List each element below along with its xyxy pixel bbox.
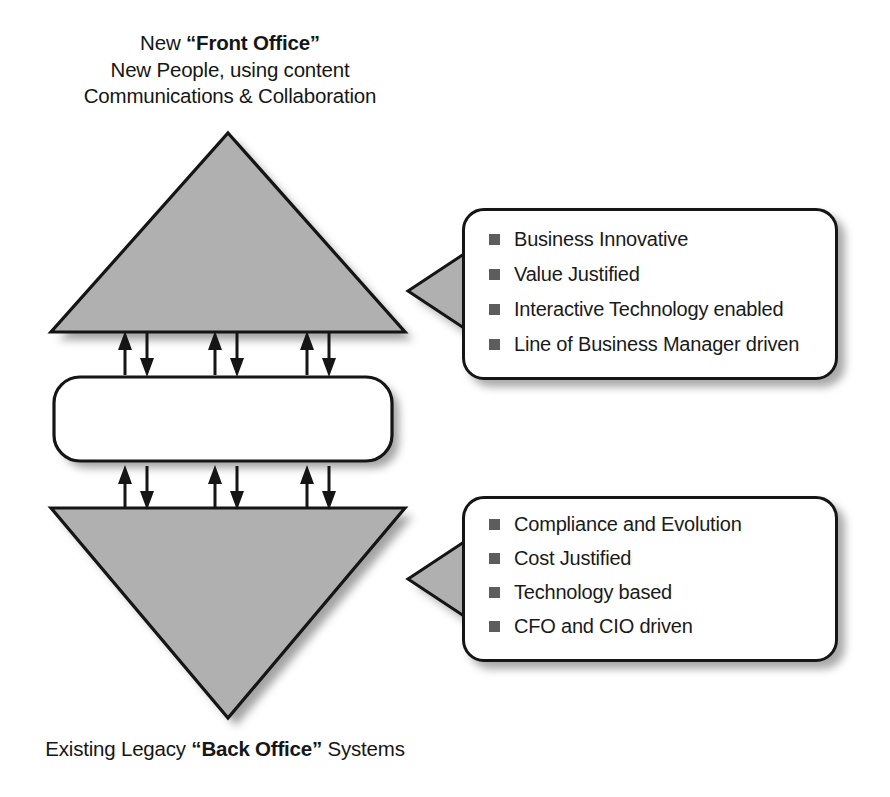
list-item: CFO and CIO driven bbox=[489, 616, 835, 636]
bottom-triangle bbox=[51, 508, 405, 718]
connector-arrow-up-6 bbox=[300, 465, 314, 509]
top-callout-pointer bbox=[408, 252, 467, 330]
bullet-square-icon bbox=[489, 304, 500, 315]
vector-layer bbox=[0, 0, 890, 797]
bullet-square-icon bbox=[489, 621, 500, 632]
top-triangle bbox=[51, 133, 405, 332]
connector-arrow-up-1 bbox=[118, 331, 132, 375]
connector-arrow-up-3 bbox=[300, 331, 314, 375]
bullet-square-icon bbox=[489, 339, 500, 350]
list-item-label: CFO and CIO driven bbox=[514, 615, 693, 637]
bullet-square-icon bbox=[489, 553, 500, 564]
callout-box-back-office: Compliance and Evolution Cost Justified … bbox=[462, 496, 838, 662]
list-item-label: Line of Business Manager driven bbox=[514, 333, 799, 355]
diagram-root: New “Front Office” New People, using con… bbox=[0, 0, 890, 797]
connector-arrow-up-5 bbox=[208, 465, 222, 509]
list-item-label: Compliance and Evolution bbox=[514, 513, 742, 535]
callout-bottom-list: Compliance and Evolution Cost Justified … bbox=[465, 499, 835, 636]
list-item-label: Cost Justified bbox=[514, 547, 631, 569]
list-item-label: Value Justified bbox=[514, 263, 640, 285]
list-item: Technology based bbox=[489, 582, 835, 602]
list-item: Cost Justified bbox=[489, 548, 835, 568]
list-item-label: Business Innovative bbox=[514, 228, 688, 250]
list-item: Interactive Technology enabled bbox=[489, 299, 835, 319]
list-item: Value Justified bbox=[489, 264, 835, 284]
bottom-callout-pointer bbox=[408, 540, 467, 618]
list-item: Compliance and Evolution bbox=[489, 514, 835, 534]
connector-group-upper bbox=[118, 331, 336, 377]
middle-box bbox=[54, 377, 392, 461]
connector-arrow-down-3 bbox=[322, 333, 336, 377]
connector-arrow-down-1 bbox=[140, 333, 154, 377]
bullet-square-icon bbox=[489, 234, 500, 245]
connector-arrow-down-2 bbox=[230, 333, 244, 377]
bullet-square-icon bbox=[489, 519, 500, 530]
callout-top-list: Business Innovative Value Justified Inte… bbox=[465, 211, 835, 354]
connector-arrow-down-4 bbox=[140, 466, 154, 510]
connector-arrow-down-5 bbox=[230, 466, 244, 510]
list-item-label: Technology based bbox=[514, 581, 672, 603]
callout-box-front-office: Business Innovative Value Justified Inte… bbox=[462, 208, 838, 380]
bullet-square-icon bbox=[489, 269, 500, 280]
connector-group-lower bbox=[118, 465, 336, 510]
connector-arrow-down-6 bbox=[322, 466, 336, 510]
list-item: Line of Business Manager driven bbox=[489, 334, 835, 354]
list-item-label: Interactive Technology enabled bbox=[514, 298, 783, 320]
connector-arrow-up-4 bbox=[118, 465, 132, 509]
list-item: Business Innovative bbox=[489, 229, 835, 249]
connector-arrow-up-2 bbox=[208, 331, 222, 375]
bullet-square-icon bbox=[489, 587, 500, 598]
